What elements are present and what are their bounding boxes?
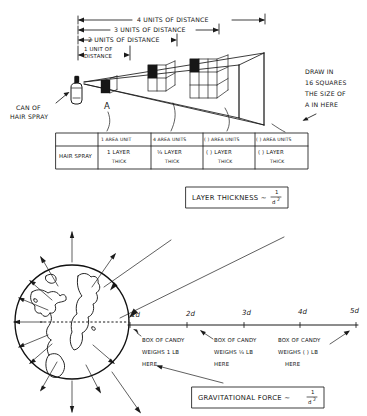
candy-3-line2: WEIGHS ( ) LB: [278, 349, 318, 355]
table-col-3-thickness-sub: THICK: [217, 159, 233, 164]
layer-thickness-formula-text: LAYER THICKNESS ~: [192, 194, 267, 202]
table-col-4-thickness: ( ) LAYER: [258, 149, 284, 155]
distance-label-2: 2 UNITS OF DISTANCE: [88, 36, 160, 43]
frame-4-empty-area: [239, 53, 264, 125]
candy-1-line3: HERE: [142, 361, 158, 367]
spray-can-label-line2: HAIR SPRAY: [10, 113, 48, 120]
instruction-line-2: 16 SQUARES: [305, 79, 347, 86]
hair-spray-can-icon: [71, 76, 82, 104]
table-col-3-thickness: ( ) LAYER: [206, 149, 232, 155]
table-col-1-thickness: 1 LAYER: [107, 149, 130, 155]
distance-label-1-line1: 1 UNIT OF: [84, 46, 112, 52]
tick-label-2d: 2d: [186, 310, 195, 318]
layer-thickness-denominator: d: [272, 199, 276, 205]
square-a-label: A: [104, 101, 110, 111]
candy-1-line1: BOX OF CANDY: [142, 337, 185, 343]
instruction-line-3: THE SIZE OF: [304, 90, 346, 97]
spray-can-pointer-arrow: [56, 92, 70, 103]
layer-thickness-formula-box: LAYER THICKNESS ~ 1 d 2: [186, 187, 288, 208]
table-col-4-thickness-sub: THICK: [269, 159, 285, 164]
distance-label-3: 3 UNITS OF DISTANCE: [114, 26, 186, 33]
gravitational-force-formula-box: GRAVITATIONAL FORCE ~ 1 d 2: [192, 387, 324, 408]
layer-thickness-exponent: 2: [277, 197, 280, 202]
spray-can-label-line1: CAN OF: [16, 104, 41, 111]
frame-2-area-grid: [148, 61, 175, 91]
table-col-2-thickness-sub: THICK: [164, 159, 180, 164]
instruction-note: DRAW IN 16 SQUARES THE SIZE OF A IN HERE: [303, 68, 347, 121]
candy-annotation-3: BOX OF CANDY WEIGHS ( ) LB HERE: [278, 331, 350, 368]
instruction-line-1: DRAW IN: [305, 68, 334, 75]
dimension-bars: 4 UNITS OF DISTANCE 3 UNITS OF DISTANCE …: [78, 14, 265, 60]
candy-1-line2: WEIGHS 1 LB: [142, 349, 179, 355]
tick-label-1d: 1d: [131, 311, 140, 319]
table-col-1-thickness-sub: THICK: [111, 159, 127, 164]
hair-spray-table: 1 AREA UNIT 4 AREA UNITS ( ) AREA UNITS …: [56, 133, 308, 169]
tick-label-3d: 3d: [242, 309, 251, 317]
candy-annotation-2: BOX OF CANDY WEIGHS ¼ LB HERE: [200, 330, 257, 367]
distance-axis: 1d 2d 3d 4d 5d: [128, 307, 359, 328]
candy-2-line1: BOX OF CANDY: [214, 337, 257, 343]
gravity-denominator: d: [308, 399, 312, 405]
gravity-numerator: 1: [311, 389, 315, 395]
top-hair-spray-diagram: 4 UNITS OF DISTANCE 3 UNITS OF DISTANCE …: [10, 14, 347, 208]
candy-annotation-1: BOX OF CANDY WEIGHS 1 LB HERE: [133, 329, 185, 367]
distance-label-1-line2: DISTANCE: [84, 53, 113, 59]
bottom-gravity-diagram: 1d 2d 3d 4d 5d BOX OF CANDY WEIGHS 1 LB …: [13, 231, 359, 414]
table-col-4-area: ( ) AREA UNITS: [256, 137, 292, 142]
table-col-3-area: ( ) AREA UNITS: [204, 137, 240, 142]
candy-2-line3: HERE: [214, 361, 230, 367]
table-row-header: HAIR SPRAY: [59, 153, 93, 159]
tick-label-4d: 4d: [298, 308, 307, 316]
table-col-1-area: 1 AREA UNIT: [101, 137, 131, 142]
expanding-cone: [84, 53, 264, 125]
tick-label-5d: 5d: [350, 307, 359, 315]
gravity-exponent: 2: [313, 397, 316, 402]
candy-2-line2: WEIGHS ¼ LB: [214, 349, 253, 355]
table-leader-lines: [107, 103, 285, 132]
table-col-2-area: 4 AREA UNITS: [153, 137, 186, 142]
layer-thickness-numerator: 1: [275, 189, 279, 195]
instruction-line-4: A IN HERE: [305, 101, 338, 108]
table-col-2-thickness: ¼ LAYER: [157, 149, 182, 155]
gravity-formula-pointer: [156, 365, 223, 383]
physics-diagram-figure: 4 UNITS OF DISTANCE 3 UNITS OF DISTANCE …: [0, 0, 367, 416]
candy-3-line3: HERE: [285, 361, 301, 367]
candy-3-line1: BOX OF CANDY: [278, 337, 321, 343]
inverse-square-law-illustration: 4 UNITS OF DISTANCE 3 UNITS OF DISTANCE …: [0, 0, 367, 416]
gravity-formula-text: GRAVITATIONAL FORCE ~: [198, 394, 290, 402]
distance-label-4: 4 UNITS OF DISTANCE: [137, 16, 209, 23]
